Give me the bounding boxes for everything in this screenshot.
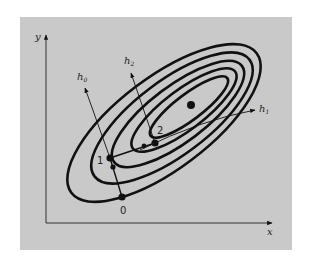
minimum-dot — [187, 101, 195, 109]
point-2-label: 2 — [157, 125, 163, 136]
point-2 — [151, 139, 158, 146]
x-axis-label: x — [267, 226, 273, 237]
point-1 — [106, 154, 113, 161]
point-0 — [118, 193, 125, 200]
point-0-label: 0 — [120, 205, 126, 216]
conjugate-direction-diagram: y x h0 h2 h1 0 1 2 — [0, 0, 310, 263]
point-2b — [142, 144, 147, 149]
point-1-label: 1 — [97, 155, 103, 166]
figure-panel — [20, 17, 292, 250]
y-axis-label: y — [34, 31, 41, 42]
point-1b — [110, 164, 115, 169]
